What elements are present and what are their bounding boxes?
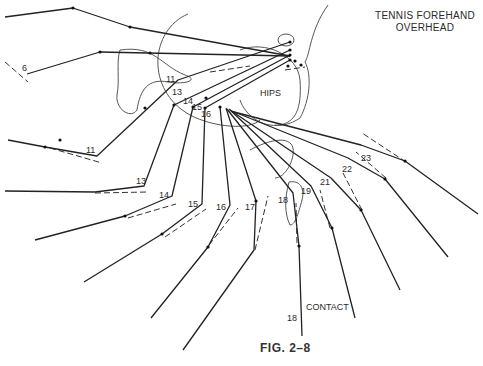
hips-label: HIPS [260,88,281,98]
frame-label: 23 [361,153,371,163]
joint-dot [330,226,333,229]
pelvis-outline [117,49,191,113]
frame-label: 16 [201,109,211,119]
frame-19 [229,109,355,318]
frame-label: 21 [320,177,330,187]
tennis-forehand-diagram: 61111131314141515161617181921222318 HIPS… [0,0,483,366]
joint-dot [299,63,302,66]
frame-11-a [8,42,290,156]
body-outlines [117,5,328,225]
joint-dot [143,106,146,109]
frame-label: 17 [245,202,255,212]
contact-label: CONTACT [306,302,349,312]
frame-label: 16 [216,202,226,212]
frame-14 [35,55,290,240]
wrist-circle [278,34,294,46]
joint-dot [204,96,207,99]
frame-6-upper [5,8,290,56]
frame-label: 13 [136,176,146,186]
joint-dot [383,177,386,180]
joint-dot [98,50,101,53]
dashed-line [343,173,362,210]
joint-dot [286,64,289,67]
joint-dot [206,245,209,248]
joint-dot [297,244,300,247]
frame-label: 14 [159,190,169,200]
joint-dot [123,214,126,217]
dashed-line [165,209,206,237]
frame-label: 6 [22,63,27,73]
frame-label: 11 [166,74,175,84]
joint-dot [288,40,291,43]
title-line-2: OVERHEAD [355,22,483,34]
joint-dot [288,53,291,56]
frame-label: 15 [188,199,198,209]
joint-markers [43,6,406,248]
frame-label: 18 [287,313,297,323]
joint-dot [288,58,291,61]
joint-dot [293,59,296,62]
joint-dot [172,103,175,106]
frame-17 [183,108,256,350]
joint-dot [288,48,291,51]
joint-dot [43,145,46,148]
frame-label: 22 [342,164,352,174]
frame-number-labels: 61111131314141515161617181921222318 [22,63,371,323]
figure-caption: FIG. 2–8 [260,341,311,355]
diagram-title: TENNIS FOREHAND OVERHEAD [355,10,483,34]
limb-segment-lines [5,8,478,350]
title-line-1: TENNIS FOREHAND [355,10,483,22]
joint-dot [58,138,61,141]
joint-dot [148,51,151,54]
frame-label: 19 [301,186,311,196]
joint-dot [71,6,74,9]
joint-dot [128,25,131,28]
joint-dot [359,208,362,211]
frame-label: 13 [172,87,182,97]
joint-dot [403,159,406,162]
hip-blob-outline [240,47,300,126]
frame-label: 11 [86,145,95,155]
joint-dot [218,105,221,108]
joint-dot [160,232,163,235]
dashed-line [255,196,268,250]
frame-label: 18 [278,195,288,205]
dashed-line [95,192,148,193]
dashed-line [209,208,238,245]
